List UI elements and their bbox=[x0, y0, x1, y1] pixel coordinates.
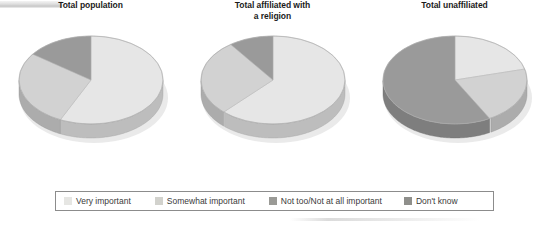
legend-item-not-too-important[interactable]: Not too/Not at all important bbox=[269, 192, 382, 210]
chart-title-line-2: a religion bbox=[185, 11, 360, 22]
legend-label-dont-know: Don't know bbox=[416, 196, 458, 206]
pie-chart-total-affiliated: Total affiliated with a religion bbox=[185, 0, 360, 186]
legend-label-not-too-important: Not too/Not at all important bbox=[281, 196, 382, 206]
pie-graphic-total-population bbox=[6, 28, 176, 154]
pie-graphic-total-unaffiliated bbox=[370, 28, 540, 154]
chart-title-line-1: Total affiliated with bbox=[185, 0, 360, 11]
chart-title-total-population: Total population bbox=[3, 0, 178, 11]
scan-artifact-smudge bbox=[290, 218, 480, 221]
legend-item-very-important[interactable]: Very important bbox=[64, 192, 131, 210]
legend-item-dont-know[interactable]: Don't know bbox=[404, 192, 458, 210]
pie-chart-total-population: Total population bbox=[3, 0, 178, 186]
chart-title-total-affiliated: Total affiliated with a religion bbox=[185, 0, 360, 21]
chart-title-total-unaffiliated: Total unaffiliated bbox=[367, 0, 542, 11]
legend-swatch-somewhat-important bbox=[155, 197, 163, 205]
pie-graphic-total-affiliated bbox=[188, 28, 358, 154]
legend-swatch-very-important bbox=[64, 197, 72, 205]
pie-chart-group: Total population Total affiliated with a… bbox=[0, 0, 549, 186]
legend-item-somewhat-important[interactable]: Somewhat important bbox=[155, 192, 245, 210]
chart-legend: Very important Somewhat important Not to… bbox=[55, 191, 494, 211]
chart-title-line-1: Total unaffiliated bbox=[367, 0, 542, 11]
legend-swatch-not-too-important bbox=[269, 197, 277, 205]
chart-title-line-1: Total population bbox=[3, 0, 178, 11]
legend-label-very-important: Very important bbox=[76, 196, 131, 206]
legend-swatch-dont-know bbox=[404, 197, 412, 205]
legend-label-somewhat-important: Somewhat important bbox=[167, 196, 245, 206]
pie-chart-total-unaffiliated: Total unaffiliated bbox=[367, 0, 542, 186]
